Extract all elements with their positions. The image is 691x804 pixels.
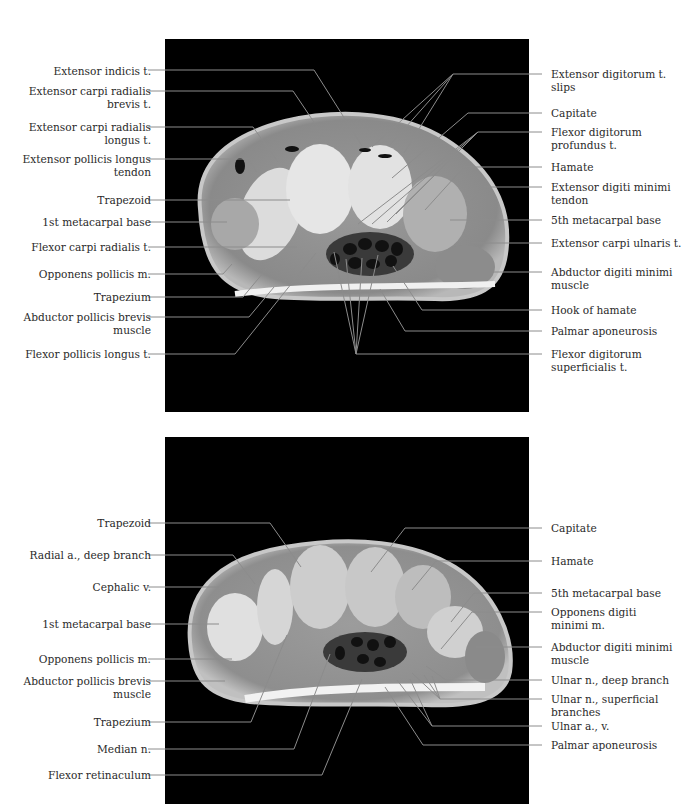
label-palmar-aponeurosis: Palmar aponeurosis	[551, 325, 657, 338]
label-hamate: Hamate	[551, 161, 593, 174]
label-trapezoid: Trapezoid	[97, 517, 151, 530]
wrist-cross-section-bottom	[165, 437, 529, 804]
label-apb: Abductor pollicis brevis muscle	[24, 675, 151, 701]
label-extensor-indicis: Extensor indicis t.	[54, 65, 151, 78]
label-flexor-retinaculum: Flexor retinaculum	[48, 769, 151, 782]
label-1st-metacarpal: 1st metacarpal base	[42, 216, 151, 229]
label-edm: Extensor digiti minimi tendon	[551, 181, 671, 207]
label-trapezium: Trapezium	[94, 716, 151, 729]
label-ulnar-artery-vein: Ulnar a., v.	[551, 720, 609, 733]
label-fds: Flexor digitorum superficialis t.	[551, 348, 642, 374]
label-capitate: Capitate	[551, 107, 597, 120]
label-opponens-pollicis: Opponens pollicis m.	[39, 653, 151, 666]
label-palmar-aponeurosis: Palmar aponeurosis	[551, 739, 657, 752]
label-fpl: Flexor pollicis longus t.	[25, 348, 151, 361]
label-1st-metacarpal: 1st metacarpal base	[42, 618, 151, 631]
label-adm: Abductor digiti minimi muscle	[551, 641, 672, 667]
label-radial-artery-deep: Radial a., deep branch	[30, 549, 151, 562]
label-ecrb: Extensor carpi radialis brevis t.	[29, 85, 151, 111]
mri-panel-top	[165, 39, 529, 412]
label-fdp: Flexor digitorum profundus t.	[551, 126, 642, 152]
label-trapezoid: Trapezoid	[97, 194, 151, 207]
label-capitate: Capitate	[551, 522, 597, 535]
label-odm: Opponens digiti minimi m.	[551, 606, 636, 632]
label-hamate: Hamate	[551, 555, 593, 568]
label-cephalic-vein: Cephalic v.	[93, 581, 151, 594]
label-ulnar-nerve-deep: Ulnar n., deep branch	[551, 674, 669, 687]
wrist-cross-section-top	[165, 39, 529, 412]
label-opponens-pollicis: Opponens pollicis m.	[39, 268, 151, 281]
label-5th-metacarpal: 5th metacarpal base	[551, 214, 661, 227]
label-5th-metacarpal: 5th metacarpal base	[551, 587, 661, 600]
label-fcr: Flexor carpi radialis t.	[31, 241, 151, 254]
label-adm: Abductor digiti minimi muscle	[551, 266, 672, 292]
label-apb: Abductor pollicis brevis muscle	[24, 311, 151, 337]
label-ulnar-nerve-superficial: Ulnar n., superficial branches	[551, 693, 658, 719]
label-epl: Extensor pollicis longus tendon	[23, 153, 151, 179]
label-ecu: Extensor carpi ulnaris t.	[551, 237, 681, 250]
label-hook-of-hamate: Hook of hamate	[551, 304, 636, 317]
label-extensor-digitorum: Extensor digitorum t. slips	[551, 68, 666, 94]
label-median-nerve: Median n.	[97, 743, 151, 756]
label-trapezium: Trapezium	[94, 291, 151, 304]
mri-panel-bottom	[165, 437, 529, 804]
label-ecrl: Extensor carpi radialis longus t.	[29, 121, 151, 147]
